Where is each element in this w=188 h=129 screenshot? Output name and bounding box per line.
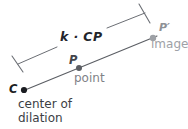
- scaled-segment-label: k · CP: [60, 31, 103, 44]
- center-caption-line1: center of: [18, 98, 72, 110]
- point-caption: point: [74, 72, 105, 84]
- center-caption-line2: dilation: [18, 112, 63, 124]
- point-p-prime-label: P′: [159, 22, 170, 33]
- dilation-diagram: k · CP P′ image P point C center of dila…: [0, 0, 188, 129]
- image-caption: image: [151, 38, 188, 50]
- point-c-dot: [21, 87, 27, 93]
- point-c-label: C: [9, 84, 17, 96]
- point-p-label: P: [69, 55, 77, 67]
- bracket-span-right: [107, 13, 145, 28]
- bracket-span-left: [18, 47, 57, 64]
